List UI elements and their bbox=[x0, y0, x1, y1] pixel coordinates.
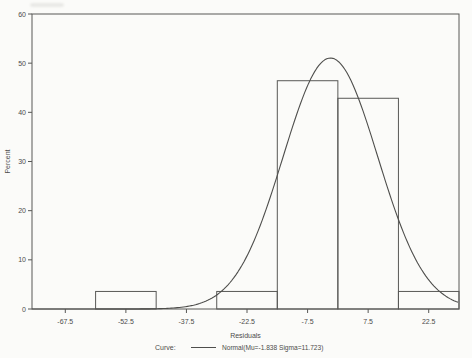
histogram-bar bbox=[338, 98, 399, 309]
normal-curve bbox=[32, 58, 458, 309]
x-axis-tick-label: -52.5 bbox=[118, 318, 134, 325]
x-axis-tick-label: -7.5 bbox=[302, 318, 314, 325]
x-axis-tick-label: -22.5 bbox=[239, 318, 255, 325]
legend-entry: Normal(Mu=-1.838 Sigma=11.723) bbox=[222, 344, 323, 352]
x-axis-tick-label: 22.5 bbox=[422, 318, 436, 325]
y-axis-tick-label: 10 bbox=[18, 256, 26, 263]
y-axis-tick-label: 60 bbox=[18, 11, 26, 18]
chart-canvas: 0102030405060-67.5-52.5-37.5-22.5-7.57.5… bbox=[0, 0, 472, 358]
residuals-histogram-figure: 0102030405060-67.5-52.5-37.5-22.5-7.57.5… bbox=[0, 0, 472, 358]
histogram-bar bbox=[277, 81, 338, 309]
x-axis-tick-label: -67.5 bbox=[57, 318, 73, 325]
residuals-histogram-page: 0102030405060-67.5-52.5-37.5-22.5-7.57.5… bbox=[0, 0, 472, 358]
y-axis-tick-label: 40 bbox=[18, 109, 26, 116]
histogram-bar bbox=[217, 291, 278, 309]
plot-frame bbox=[32, 14, 459, 309]
legend-label: Curve: bbox=[155, 344, 176, 351]
y-axis-tick-label: 50 bbox=[18, 60, 26, 67]
y-axis-tick-label: 20 bbox=[18, 207, 26, 214]
y-axis-tick-label: 0 bbox=[22, 306, 26, 313]
x-axis-tick-label: -37.5 bbox=[178, 318, 194, 325]
x-axis-tick-label: 7.5 bbox=[363, 318, 373, 325]
y-axis-title: Percent bbox=[4, 149, 11, 173]
x-axis-title: Residuals bbox=[230, 332, 261, 339]
y-axis-tick-label: 30 bbox=[18, 158, 26, 165]
histogram-bar bbox=[96, 291, 157, 309]
histogram-bar bbox=[398, 291, 459, 309]
